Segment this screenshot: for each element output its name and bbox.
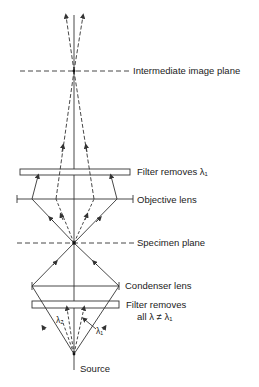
objective-lens-label: Objective lens	[137, 194, 197, 205]
condenser-lens-label: Condenser lens	[125, 280, 192, 291]
specimen-plane-label: Specimen plane	[137, 237, 205, 248]
microscope-diagram	[0, 0, 259, 387]
filter-top-label: Filter removes λ₁	[137, 166, 208, 177]
filter-bottom-label-line1: Filter removes	[126, 299, 186, 310]
filter-bottom-label-line2: all λ ≠ λ₁	[137, 311, 172, 322]
lambda1-label: λ₁	[96, 326, 103, 337]
lambda2-label: λ₂	[56, 315, 64, 326]
source-label: Source	[80, 363, 110, 374]
intermediate-image-plane-label: Intermediate image plane	[133, 65, 240, 76]
filter-top	[20, 169, 130, 175]
